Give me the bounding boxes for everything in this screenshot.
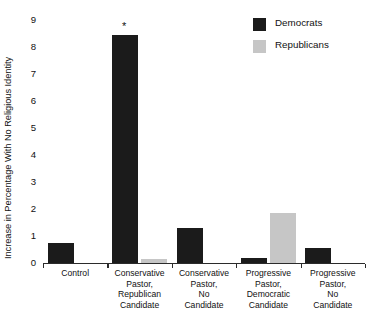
bar-democrats [305, 248, 331, 263]
legend-color-swatch [253, 18, 266, 31]
category-label-line: Pastor, [301, 279, 365, 290]
category-label-line: Republican [107, 289, 171, 300]
category-label-line: Candidate [301, 300, 365, 311]
y-axis-tick-label: 0 [22, 257, 36, 268]
category-label-line: Progressive [301, 268, 365, 279]
legend-label: Democrats [275, 17, 322, 28]
x-axis-category-label: Control [43, 268, 107, 279]
category-label-line: Candidate [172, 300, 236, 311]
bar-democrats [177, 228, 203, 263]
legend-color-swatch [253, 40, 266, 53]
x-axis-tick-mark [301, 264, 302, 268]
y-axis-tick-label: 1 [22, 230, 36, 241]
bar-republicans [141, 259, 167, 263]
bar-republicans [270, 213, 296, 263]
x-axis-tick-mark [107, 264, 108, 268]
category-label-line: Progressive [236, 268, 300, 279]
legend-item: Republicans [253, 38, 368, 60]
category-label-line: No [301, 289, 365, 300]
category-label-line: Pastor, [107, 279, 171, 290]
bar-group [112, 14, 167, 263]
category-label-line: Conservative [172, 268, 236, 279]
y-axis-tick-label: 4 [22, 149, 36, 160]
x-axis-tick-mark [236, 264, 237, 268]
significance-asterisk: * [122, 21, 126, 32]
x-axis-tick-mark [172, 264, 173, 268]
y-axis-tick-label: 9 [22, 14, 36, 25]
x-axis-category-label: ConservativePastor,RepublicanCandidate [107, 268, 171, 310]
y-axis-tick-label: 6 [22, 95, 36, 106]
category-label-line: Democratic [236, 289, 300, 300]
bar-democrats [48, 243, 74, 263]
y-axis-tick-label: 3 [22, 176, 36, 187]
category-label-line: Pastor, [236, 279, 300, 290]
bar-group [48, 14, 103, 263]
x-axis-category-label: ProgressivePastor,NoCandidate [301, 268, 365, 310]
x-axis-category-label: ProgressivePastor,DemocraticCandidate [236, 268, 300, 310]
category-label-line: Conservative [107, 268, 171, 279]
chart-legend: DemocratsRepublicans [253, 16, 368, 60]
category-label-line: Pastor, [172, 279, 236, 290]
bar-democrats [241, 258, 267, 263]
bar-group [177, 14, 232, 263]
y-axis-tick-label: 5 [22, 122, 36, 133]
y-axis-tick-label: 8 [22, 41, 36, 52]
category-label-line: Control [43, 268, 107, 279]
x-axis-line [43, 263, 365, 264]
x-axis-tick-mark [365, 264, 366, 268]
x-axis-tick-mark [43, 264, 44, 268]
category-label-line: Candidate [236, 300, 300, 311]
x-axis-category-label: ConservativePastor,NoCandidate [172, 268, 236, 310]
bar-chart-figure: Increase in Percentage With No Religious… [0, 0, 372, 315]
bar-democrats [112, 35, 138, 263]
category-label-line: No [172, 289, 236, 300]
y-axis-tick-label: 7 [22, 68, 36, 79]
legend-label: Republicans [275, 39, 329, 50]
legend-item: Democrats [253, 16, 368, 38]
y-axis-tick-label: 2 [22, 203, 36, 214]
category-label-line: Candidate [107, 300, 171, 311]
